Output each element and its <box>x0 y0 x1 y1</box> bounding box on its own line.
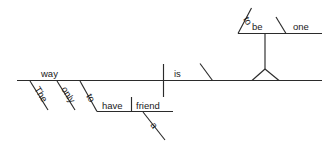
word-one: one <box>293 21 309 32</box>
tripod-right-leg <box>265 69 279 81</box>
sentence-diagram-canvas: way The only to have friend a is to be o… <box>0 0 327 151</box>
word-be: be <box>252 21 263 32</box>
word-the: The <box>32 84 50 104</box>
word-only: only <box>59 84 78 105</box>
word-way: way <box>40 68 58 79</box>
tripod-left-leg <box>252 69 265 81</box>
predicate-nominative-slant <box>200 64 213 81</box>
word-have: have <box>102 100 123 111</box>
word-is: is <box>174 68 181 79</box>
word-friend: friend <box>136 100 160 111</box>
sentence-diagram: way The only to have friend a is to be o… <box>0 0 327 151</box>
elevated-predicate-nominative-slant <box>276 17 286 34</box>
